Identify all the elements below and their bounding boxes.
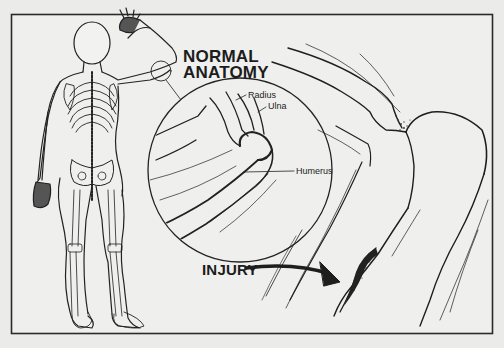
label-humerus: Humerus <box>296 166 333 176</box>
label-radius: Radius <box>248 90 276 100</box>
heading-anatomy: ANATOMY <box>183 64 269 81</box>
label-ulna: Ulna <box>268 101 287 111</box>
heading-injury: INJURY <box>202 261 258 278</box>
illustration-frame: NORMAL ANATOMY Radius Ulna Humerus INJUR… <box>0 0 504 348</box>
